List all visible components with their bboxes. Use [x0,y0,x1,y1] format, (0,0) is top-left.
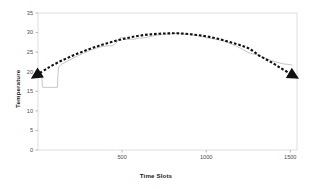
x-tick-label: 500 [107,154,137,160]
y-tick-label: 0 [17,147,33,153]
y-tick-label: 5 [17,127,33,133]
y-tick-label: 30 [17,29,33,35]
y-tick-label: 10 [17,108,33,114]
y-axis-tick-marks [36,13,39,150]
x-axis-tick-marks [122,150,290,153]
chart-figure: Temperature Time Slots 05101520253035 50… [0,0,312,189]
x-tick-label: 1500 [275,154,305,160]
plot-panel [38,13,297,150]
x-tick-label: 1000 [191,154,221,160]
y-tick-label: 35 [17,10,33,16]
y-tick-label: 20 [17,69,33,75]
plot-canvas [0,0,312,189]
y-tick-label: 25 [17,49,33,55]
y-tick-label: 15 [17,88,33,94]
x-axis-title: Time Slots [0,172,312,179]
